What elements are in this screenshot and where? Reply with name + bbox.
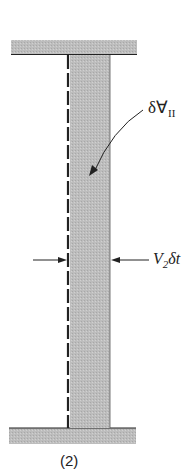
volume-symbol: δⱯ [148,98,168,117]
arrowhead-left-icon [111,257,120,263]
volume-label: δⱯII [148,97,175,118]
velocity-subscript: 2 [163,258,169,270]
displacement-label: V2δt [153,250,180,268]
volume-subscript: II [168,107,175,119]
time-increment: δt [168,250,180,267]
top-plate [11,40,137,54]
velocity-symbol: V [153,250,163,267]
shaded-volume-column [70,55,110,428]
arrowhead-right-icon [58,257,67,263]
diagram-canvas [0,0,192,474]
bottom-plate [9,428,136,444]
figure-caption: (2) [60,452,78,469]
